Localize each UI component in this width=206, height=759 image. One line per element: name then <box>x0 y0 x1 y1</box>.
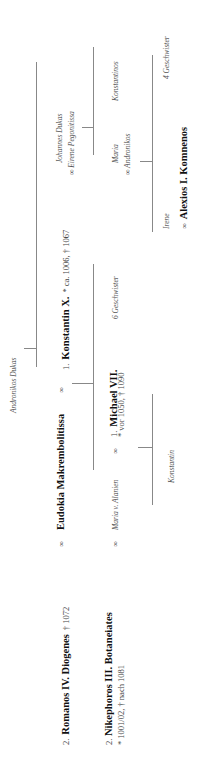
romanos-iv: 2. Romanos IV. Diogenes † 1072 <box>56 607 72 745</box>
alexios-i: ∞ Alexios I. Komnenos <box>174 127 190 229</box>
michael-siblings: 6 Geschwister <box>112 276 120 319</box>
maria-v-alanien: Maria v. Alanien <box>112 480 120 530</box>
marriage-symbol: ∞ <box>112 541 120 547</box>
johannes-dukas: Johannes Dukas <box>56 114 64 163</box>
marriage-symbol: ∞ <box>112 448 120 454</box>
connector <box>140 161 152 162</box>
marriage-symbol: ∞ <box>58 387 66 393</box>
konstantin-son: Konstantin <box>168 450 176 483</box>
irene-siblings: 4 Geschwister <box>163 36 171 79</box>
nikephoros-iii: 2. Nikephoros III. Botaneiates <box>104 612 115 745</box>
irene: Irene <box>163 213 171 229</box>
maria-spouse: ∞ Andronikos <box>124 134 132 175</box>
nikephoros-dates: * 1001/02, † nach 1081 <box>117 665 126 745</box>
sibling-bar <box>93 47 94 155</box>
sibling-bar <box>36 62 37 367</box>
konstantinos: Konstantinos <box>112 61 120 101</box>
andronikos-dukas: Andronikos Dukas <box>10 358 18 413</box>
konstantin-x: 1. Konstantin X. * ca. 1006, † 1067 <box>56 230 72 370</box>
sibling-bar <box>152 55 153 232</box>
sibling-bar <box>152 394 153 505</box>
johannes-spouse: ∞ Eirene Pegonitissa <box>68 111 76 175</box>
michael-dates: * vor 1050, † 1090 <box>117 373 126 437</box>
connector <box>72 383 93 384</box>
connector <box>138 447 152 448</box>
eudokia: Eudokia Makrembolitissa <box>56 414 67 530</box>
connector <box>24 348 36 349</box>
family-tree-diagram: Andronikos Dukas 2. Romanos IV. Diogenes… <box>0 0 206 759</box>
sibling-bar <box>93 264 94 470</box>
connector <box>82 127 93 128</box>
marriage-symbol: ∞ <box>58 541 66 547</box>
maria: Maria <box>112 144 120 163</box>
